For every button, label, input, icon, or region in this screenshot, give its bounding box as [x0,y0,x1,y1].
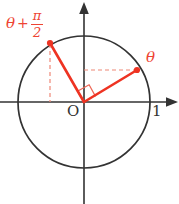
theta-plus-half-pi-point-marker [47,40,53,46]
label-plus-sign: + [17,16,29,30]
ray-theta [84,70,137,102]
fraction-pi-over-two: π 2 [31,9,44,39]
label-theta-plus-half-pi: θ + π 2 [6,8,43,38]
label-x-axis-unit: 1 [152,104,162,119]
label-theta-symbol: θ [6,16,15,31]
fraction-numerator: π [31,9,44,23]
theta-point-marker [134,67,140,73]
ray-theta-plus-half-pi [50,43,84,102]
y-axis-arrowhead [79,2,89,14]
fraction-denominator: 2 [31,26,43,40]
label-origin: O [67,104,79,119]
label-theta: θ [146,50,155,65]
unit-circle-figure: θ + π 2 θ O 1 [0,0,179,204]
x-axis-arrowhead [166,97,178,107]
